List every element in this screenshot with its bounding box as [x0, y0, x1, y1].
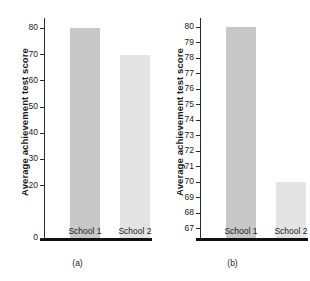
y-axis-tick-label: 70	[29, 49, 38, 60]
y-axis-tick-mark	[196, 120, 200, 121]
y-axis-tick-label: 0	[33, 232, 38, 243]
y-axis-tick-mark	[196, 182, 200, 183]
y-axis-tick-mark	[196, 166, 200, 167]
chart-panel-b: Average achievement test score 676869707…	[155, 0, 310, 281]
y-axis-tick-label: 67	[185, 223, 194, 234]
panel-caption-a: (a)	[0, 258, 155, 268]
plot-area-panel-b: 6768697071727374757677787980	[200, 18, 304, 238]
x-axis-tick-label: School 1	[59, 226, 111, 236]
y-axis-tick-label: 71	[185, 161, 194, 172]
y-axis-tick-label: 50	[29, 101, 38, 112]
y-axis-spine-panel-b	[200, 18, 201, 238]
y-axis-tick-mark	[196, 89, 200, 90]
y-axis-tick-label: 70	[185, 176, 194, 187]
plot-area-panel-a: 020304050607080	[44, 18, 148, 238]
y-axis-tick-label: 80	[29, 22, 38, 33]
y-axis-tick-label: 69	[185, 192, 194, 203]
y-axis-tick-mark	[40, 80, 44, 81]
y-axis-tick-label: 72	[185, 145, 194, 156]
y-axis-tick-mark	[196, 42, 200, 43]
y-axis-spine-panel-a	[44, 18, 45, 238]
y-axis-tick-mark	[196, 58, 200, 59]
y-axis-tick-mark	[40, 185, 44, 186]
x-axis-baseline-panel-a	[40, 238, 152, 241]
y-axis-tick-mark	[196, 104, 200, 105]
y-axis-tick-label: 77	[185, 68, 194, 79]
y-axis-tick-mark	[40, 107, 44, 108]
x-axis-tick-label: School 2	[109, 226, 161, 236]
y-axis-tick-mark	[40, 159, 44, 160]
bar-school-1	[70, 28, 100, 238]
y-axis-title-panel-a: Average achievement test score	[16, 7, 34, 237]
y-axis-tick-label: 68	[185, 207, 194, 218]
y-axis-tick-mark	[196, 135, 200, 136]
y-axis-tick-mark	[196, 213, 200, 214]
y-axis-tick-label: 74	[185, 114, 194, 125]
y-axis-tick-mark	[196, 228, 200, 229]
two-panel-bar-chart-figure: Average achievement test score 020304050…	[0, 0, 310, 281]
y-axis-tick-mark	[196, 197, 200, 198]
y-axis-tick-label: 76	[185, 83, 194, 94]
y-axis-tick-mark	[40, 238, 44, 239]
y-axis-tick-label: 60	[29, 75, 38, 86]
y-axis-tick-label: 79	[185, 37, 194, 48]
y-axis-tick-mark	[196, 27, 200, 28]
panel-caption-b: (b)	[155, 258, 310, 268]
y-axis-tick-label: 75	[185, 99, 194, 110]
y-axis-tick-label: 78	[185, 52, 194, 63]
bar-school-1	[226, 27, 256, 238]
chart-panel-a: Average achievement test score 020304050…	[0, 0, 155, 281]
y-axis-tick-mark	[40, 28, 44, 29]
y-axis-tick-mark	[40, 54, 44, 55]
y-axis-tick-label: 80	[185, 21, 194, 32]
y-axis-tick-label: 40	[29, 127, 38, 138]
y-axis-tick-mark	[196, 73, 200, 74]
x-axis-baseline-panel-b	[196, 238, 308, 241]
y-axis-tick-mark	[40, 133, 44, 134]
x-axis-tick-label: School 2	[265, 226, 310, 236]
y-axis-tick-mark	[196, 151, 200, 152]
y-axis-tick-label: 20	[29, 180, 38, 191]
y-axis-tick-label: 30	[29, 153, 38, 164]
y-axis-tick-label: 73	[185, 130, 194, 141]
bar-school-2	[120, 55, 150, 238]
x-axis-tick-label: School 1	[215, 226, 267, 236]
